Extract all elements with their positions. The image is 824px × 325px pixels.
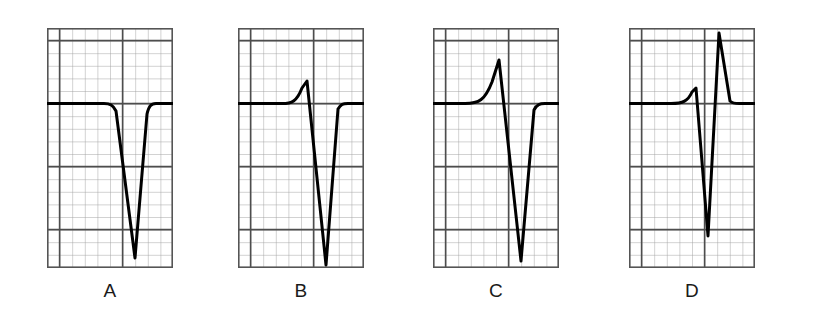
- panel-c-graph: [433, 28, 559, 268]
- panel-b-label: B: [238, 280, 364, 302]
- panel-d-label: D: [629, 280, 755, 302]
- panel-a-graph: [47, 28, 173, 268]
- panel-c-label: C: [433, 280, 559, 302]
- panel-c-minor-grid: [433, 28, 559, 268]
- panel-b: [238, 28, 364, 268]
- panel-d: [629, 28, 755, 268]
- panel-d-graph: [629, 28, 755, 268]
- panel-a-minor-grid: [47, 28, 173, 268]
- panel-b-minor-grid: [238, 28, 364, 268]
- panel-c: [433, 28, 559, 268]
- panel-b-graph: [238, 28, 364, 268]
- panel-a: [47, 28, 173, 268]
- panel-d-minor-grid: [629, 28, 755, 268]
- ecg-morphology-figure: A B: [0, 0, 824, 325]
- panel-a-label: A: [47, 280, 173, 302]
